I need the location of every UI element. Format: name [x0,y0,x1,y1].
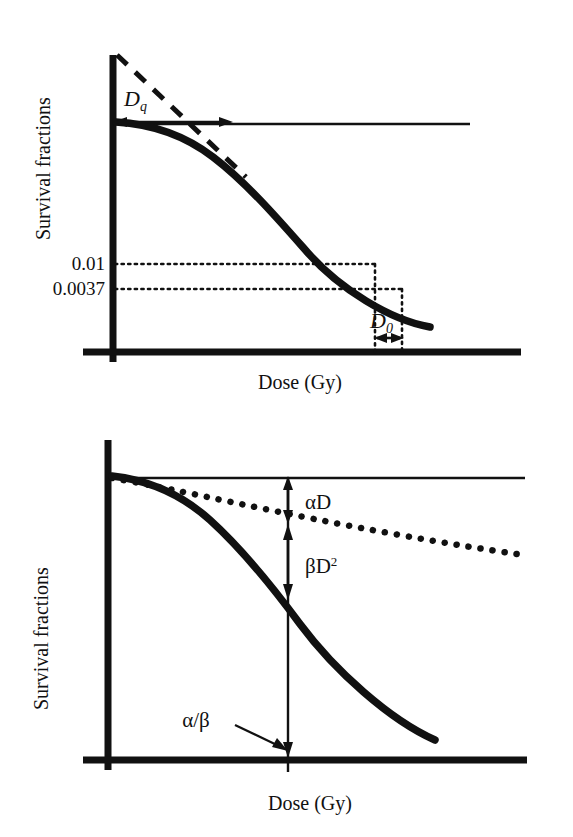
extrapolated-tangent-line [117,55,246,177]
alpha-beta-label: α/β [182,708,210,732]
y-axis-title: Survival fractions [32,97,54,240]
alpha-d-label: αD [305,490,331,514]
x-axis-title: Dose (Gy) [268,792,352,815]
beta-d-squared-label: βD2 [305,554,337,578]
y-axis-title: Survival fractions [30,567,52,710]
tick-label-001: 0.01 [72,253,105,274]
tick-label-00037: 0.0037 [53,278,105,299]
alpha-beta-pointer-arrow [235,725,293,758]
survival-curve [112,476,435,740]
multitarget-chart-svg: Dq 0.01 0.0037 D0 Survival fractions Dos… [0,0,573,410]
panel-linear-quadratic: αD βD2 α/β Survival fractions Dose (Gy) [0,410,573,837]
beta-d-squared-dimension-arrow [283,524,293,600]
panel-multitarget: Dq 0.01 0.0037 D0 Survival fractions Dos… [0,0,573,410]
radiobiology-survival-curve-figure: Dq 0.01 0.0037 D0 Survival fractions Dos… [0,0,573,837]
linear-quadratic-chart-svg: αD βD2 α/β Survival fractions Dose (Gy) [0,410,573,837]
dq-label: Dq [123,86,147,114]
survival-curve [116,122,430,327]
x-axis-title: Dose (Gy) [258,371,342,394]
alpha-d-dimension-arrow [283,476,293,524]
